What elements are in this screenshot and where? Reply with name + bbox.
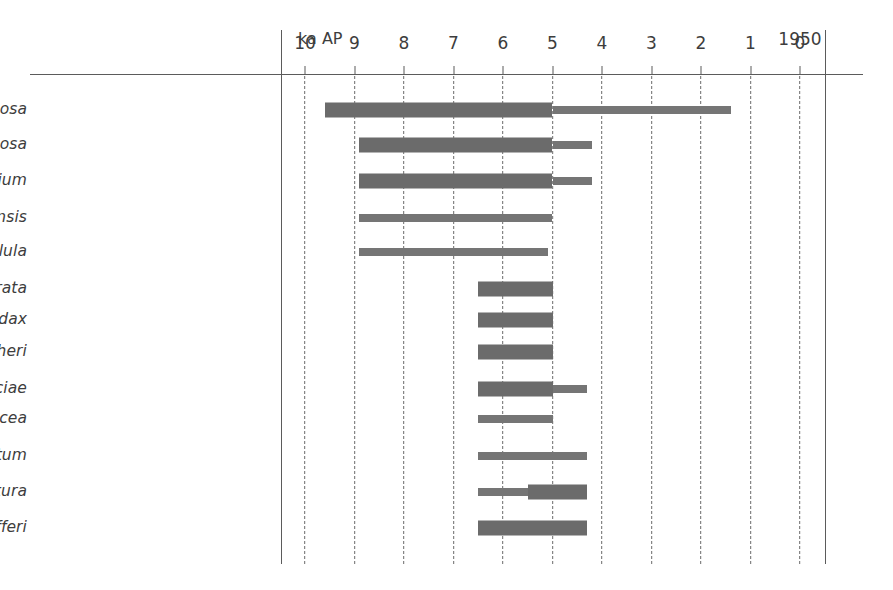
x-axis-tick [503,66,504,75]
species-label: Clypeomorus coralium [0,173,27,189]
range-bar-segment [359,214,552,222]
x-axis-tick-label: 6 [498,35,509,52]
range-bar-segment [359,174,552,189]
x-axis-tick-label: 4 [597,35,608,52]
range-bar-segment [478,415,552,423]
x-axis-tick-label: 7 [448,35,459,52]
range-bar-segment [553,141,593,149]
gridline [700,76,701,564]
x-axis-tick-label: 2 [696,35,707,52]
species-label: Dendostrea paulucciae [0,381,27,397]
x-axis-tick [552,66,553,75]
species-label: Gafrarium divaricatum [0,448,27,464]
species-label: Periglypla fisheri [0,344,27,360]
range-bar-segment [325,103,553,118]
gridline [651,76,652,564]
reference-year-caption: 1950 [778,31,821,48]
x-axis-tick [602,66,603,75]
species-label: Pictoneritina oulaniensis [0,210,27,226]
x-axis-tick [750,66,751,75]
range-bar-segment [478,382,552,397]
gridline [750,76,751,564]
range-bar-segment [359,248,547,256]
range-bar-segment [478,345,552,360]
species-label-column: Tagiliarca granosaAnomalocardia squamosa… [0,0,270,590]
species-label: Standella capitlacea [0,411,27,427]
x-axis-tick [800,66,801,75]
x-axis-tick [404,66,405,75]
x-axis-tick-label: 8 [399,35,410,52]
plot-frame-left [281,30,282,564]
range-bar-segment [478,488,528,496]
species-label: Proclava pfefferi [0,520,27,536]
range-bar-segment [478,282,552,297]
x-axis-tick [354,66,355,75]
species-range-chart: 109876543210 ka AP 1950 Tagiliarca grano… [0,0,893,590]
range-bar-segment [553,106,731,114]
x-axis-tick-label: 1 [745,35,756,52]
plot-frame-right [825,30,826,564]
gridline [601,76,602,564]
range-bar-segment [359,138,552,153]
gridline [304,76,305,564]
range-bar-segment [478,521,587,536]
species-label: Tagiliarca granosa [0,102,27,118]
x-axis-tick [305,66,306,75]
x-axis-tick [453,66,454,75]
x-axis-tick-label: 3 [646,35,657,52]
range-bar-segment [478,313,552,328]
x-axis-tick [701,66,702,75]
gridline [799,76,800,564]
range-bar-segment [553,385,588,393]
gridline [354,76,355,564]
species-label: Saccostrea mordax [0,312,27,328]
range-bar-segment [478,452,587,460]
species-label: Pliacularia bellula [0,244,27,260]
axis-unit-caption: ka AP [298,31,342,47]
range-bar-segment [528,485,587,500]
x-axis-tick [651,66,652,75]
x-axis-tick-label: 5 [547,35,558,52]
species-label: Anomalocardia squamosa [0,137,27,153]
x-axis-tick-label: 9 [349,35,360,52]
species-label: Barbatia bicolorata [0,281,27,297]
range-bar-segment [553,177,593,185]
species-label: Tellinimactora edentura [0,484,27,500]
